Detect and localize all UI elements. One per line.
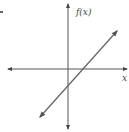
coordinate-plane: f(x) x bbox=[0, 0, 129, 132]
x-axis-label: x bbox=[122, 73, 127, 83]
function-line bbox=[40, 31, 117, 117]
bullet-mark bbox=[0, 11, 3, 13]
graph-figure: f(x) x bbox=[0, 0, 129, 132]
y-axis-label: f(x) bbox=[75, 7, 92, 17]
